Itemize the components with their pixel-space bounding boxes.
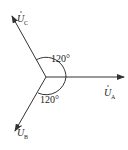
phasor-diagram: 120° 120° U A U C U B	[0, 0, 128, 150]
angle-label-ab: 120°	[40, 94, 59, 105]
label-uc: U C	[17, 11, 28, 26]
svg-text:C: C	[24, 20, 28, 26]
svg-text:A: A	[111, 94, 116, 100]
angle-arc-ab	[38, 77, 66, 95]
svg-text:B: B	[24, 134, 28, 140]
label-ub: U B	[17, 125, 28, 140]
label-ua: U A	[104, 85, 116, 100]
angle-label-ac: 120°	[51, 53, 70, 64]
phasor-c-arrow	[12, 16, 46, 77]
